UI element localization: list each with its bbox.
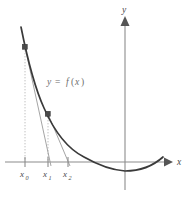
tick-label-x0-var: x bbox=[19, 169, 24, 179]
tick-label-x1-var: x bbox=[42, 169, 47, 179]
figure-canvas: y x y = f ( x ) x 0 x 1 x 2 bbox=[0, 0, 188, 199]
tick-label-x1: x 1 bbox=[42, 169, 52, 181]
function-label: y = f ( x ) bbox=[46, 77, 84, 88]
newtons-method-figure: y x y = f ( x ) x 0 x 1 x 2 bbox=[0, 0, 188, 199]
x-axis-label: x bbox=[176, 157, 182, 167]
tick-label-x2-sub: 2 bbox=[69, 174, 72, 181]
function-label-open-paren: ( bbox=[71, 77, 74, 88]
y-axis-label: y bbox=[121, 5, 127, 15]
function-label-close-paren: ) bbox=[81, 77, 84, 88]
function-label-f: f bbox=[66, 77, 70, 87]
y-axis-arrow-icon bbox=[121, 16, 130, 26]
tick-label-x0-sub: 0 bbox=[26, 174, 30, 181]
point-marker-x1 bbox=[45, 111, 50, 116]
function-label-variable: x bbox=[74, 77, 80, 87]
function-curve bbox=[21, 27, 163, 171]
tick-label-x0: x 0 bbox=[19, 169, 30, 181]
point-marker-x0 bbox=[22, 44, 27, 49]
function-label-y: y bbox=[46, 77, 52, 87]
tick-label-x2-var: x bbox=[62, 169, 67, 179]
function-label-equals: = bbox=[55, 77, 60, 87]
tick-label-x2: x 2 bbox=[62, 169, 72, 181]
x-axis-arrow-icon bbox=[164, 158, 173, 167]
tick-label-x1-sub: 1 bbox=[49, 174, 52, 181]
